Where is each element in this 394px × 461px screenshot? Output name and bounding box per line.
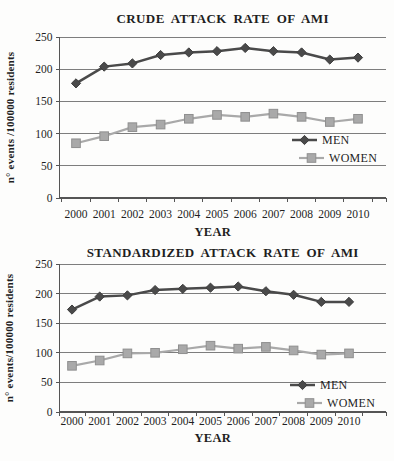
- marker-men: [156, 50, 165, 59]
- y-tick-label: 50: [41, 160, 53, 172]
- x-tick-label: 2007: [262, 208, 285, 220]
- x-tick-label: 2000: [65, 208, 88, 220]
- marker-men: [344, 297, 353, 306]
- x-tick-label: 2002: [116, 415, 139, 427]
- ami-attack-rate-figure: CRUDE ATTACK RATE OF AMIn° events /10000…: [0, 0, 394, 461]
- y-axis-label: n° events /100000 residents: [4, 51, 16, 183]
- x-tick-label: 2005: [206, 208, 229, 220]
- x-tick-label: 2006: [234, 208, 257, 220]
- x-tick-label: 2002: [121, 208, 144, 220]
- standardized-attack-rate-chart: STANDARDIZED ATTACK RATE OF AMIn° events…: [0, 242, 394, 461]
- legend-label-women: WOMEN: [327, 396, 375, 410]
- x-tick-label: 2008: [282, 415, 305, 427]
- y-axis-label: n° events/100000 residents: [3, 273, 15, 402]
- marker-women: [95, 356, 104, 365]
- x-tick-label: 2010: [347, 208, 370, 220]
- x-axis-label: YEAR: [194, 225, 231, 239]
- x-tick-label: 2007: [254, 415, 277, 427]
- marker-men: [128, 59, 137, 68]
- legend-label-men: MEN: [322, 133, 350, 147]
- marker-men: [234, 282, 243, 291]
- y-tick-label: 0: [47, 406, 53, 418]
- x-tick-label: 2010: [338, 415, 361, 427]
- marker-women: [345, 349, 354, 358]
- marker-men: [261, 287, 270, 296]
- y-tick-label: 250: [35, 31, 53, 43]
- y-tick-label: 100: [35, 347, 53, 359]
- marker-women: [326, 118, 335, 127]
- marker-women: [354, 114, 363, 123]
- crude-attack-rate-chart: CRUDE ATTACK RATE OF AMIn° events /10000…: [0, 0, 394, 242]
- marker-women: [317, 350, 326, 359]
- y-tick-label: 200: [35, 288, 53, 300]
- marker-women: [297, 113, 306, 122]
- marker-legend-men: [300, 135, 309, 144]
- marker-women: [213, 111, 222, 120]
- marker-men: [206, 283, 215, 292]
- marker-men: [123, 291, 132, 300]
- marker-legend-women: [305, 399, 314, 408]
- chart-title: CRUDE ATTACK RATE OF AMI: [116, 11, 329, 26]
- x-axis-label: YEAR: [194, 431, 231, 445]
- y-tick-label: 250: [35, 258, 53, 270]
- x-tick-label: 2009: [318, 208, 341, 220]
- x-tick-label: 2009: [310, 415, 333, 427]
- marker-men: [353, 53, 362, 62]
- marker-men: [289, 290, 298, 299]
- legend-label-men: MEN: [320, 378, 348, 392]
- x-tick-label: 2001: [93, 208, 116, 220]
- marker-men: [317, 297, 326, 306]
- marker-women: [100, 132, 109, 141]
- marker-men: [325, 55, 334, 64]
- legend-label-women: WOMEN: [329, 151, 377, 165]
- marker-men: [269, 47, 278, 56]
- marker-women: [289, 346, 298, 355]
- marker-women: [151, 349, 160, 358]
- y-tick-label: 0: [47, 192, 53, 204]
- x-tick-label: 2008: [290, 208, 313, 220]
- marker-women: [123, 349, 132, 358]
- marker-men: [212, 47, 221, 56]
- marker-men: [297, 48, 306, 57]
- marker-legend-women: [307, 154, 316, 163]
- marker-men: [184, 48, 193, 57]
- x-tick-label: 2003: [149, 208, 172, 220]
- x-tick-label: 2005: [199, 415, 222, 427]
- marker-legend-men: [298, 380, 307, 389]
- x-tick-label: 2004: [177, 208, 200, 220]
- x-tick-label: 2006: [227, 415, 250, 427]
- chart-title: STANDARDIZED ATTACK RATE OF AMI: [87, 245, 359, 260]
- x-tick-label: 2003: [144, 415, 167, 427]
- y-tick-label: 150: [35, 317, 53, 329]
- marker-women: [262, 343, 271, 352]
- marker-women: [206, 341, 215, 350]
- x-tick-label: 2001: [88, 415, 111, 427]
- marker-women: [128, 123, 137, 132]
- marker-women: [179, 345, 188, 354]
- y-tick-label: 50: [41, 376, 53, 388]
- y-tick-label: 150: [35, 95, 53, 107]
- marker-women: [241, 113, 250, 122]
- marker-women: [156, 120, 165, 129]
- y-tick-label: 200: [35, 63, 53, 75]
- marker-women: [269, 109, 278, 118]
- marker-women: [72, 139, 81, 148]
- marker-women: [185, 114, 194, 123]
- marker-women: [68, 362, 77, 371]
- x-tick-label: 2000: [61, 415, 84, 427]
- marker-women: [234, 344, 243, 353]
- x-tick-label: 2004: [171, 415, 194, 427]
- y-tick-label: 100: [35, 128, 53, 140]
- marker-men: [178, 284, 187, 293]
- marker-men: [67, 305, 76, 314]
- marker-men: [241, 43, 250, 52]
